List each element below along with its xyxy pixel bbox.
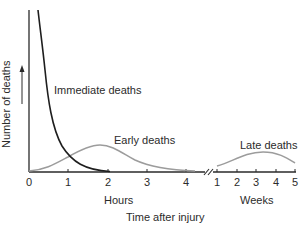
y-axis-label: Number of deaths — [0, 61, 12, 148]
hours-unit-label: Hours — [104, 194, 133, 206]
week-tick-label: 2 — [234, 176, 240, 188]
late-deaths-curve — [217, 152, 295, 166]
hour-tick-label: 1 — [65, 176, 71, 188]
hour-tick-label: 0 — [26, 176, 32, 188]
early-deaths-curve — [29, 145, 195, 171]
y-arrow-head-icon — [20, 65, 25, 72]
weeks-unit-label: Weeks — [240, 194, 273, 206]
late-deaths-label: Late deaths — [240, 139, 298, 151]
week-tick-label: 3 — [253, 176, 259, 188]
hour-tick-label: 3 — [144, 176, 150, 188]
hour-tick-label: 2 — [105, 176, 111, 188]
week-tick-label: 4 — [273, 176, 279, 188]
x-axis-label: Time after injury — [126, 211, 204, 223]
hour-tick-label: 4 — [183, 176, 189, 188]
early-deaths-label: Early deaths — [114, 134, 175, 146]
week-tick-label: 5 — [292, 176, 298, 188]
immediate-deaths-label: Immediate deaths — [54, 84, 141, 96]
week-tick-label: 1 — [214, 176, 220, 188]
